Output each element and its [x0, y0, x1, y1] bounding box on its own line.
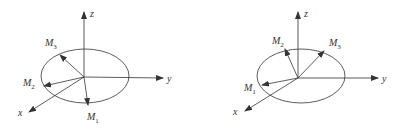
right-labels: z y x M1 M2 M3: [232, 8, 387, 117]
left-labels: z y x M1 M2 M3: [17, 8, 172, 125]
right-vector-m2: [285, 49, 298, 78]
left-m3-label: M3: [44, 37, 57, 51]
left-y-axis: [84, 77, 163, 78]
left-x-axis: [29, 77, 84, 112]
left-x-label: x: [17, 107, 23, 118]
left-m2-label: M2: [22, 77, 35, 91]
diagram-canvas: z y x M1 M2 M3 z y x M1 M2 M3: [0, 0, 400, 129]
left-diagram: [29, 12, 163, 112]
right-y-label: y: [381, 73, 387, 84]
left-y-label: y: [166, 73, 172, 84]
right-vector-m3: [298, 51, 324, 78]
left-ellipse: [41, 49, 129, 103]
right-m1-label: M1: [243, 82, 256, 96]
right-m3-label: M3: [328, 37, 341, 51]
right-z-label: z: [303, 8, 308, 19]
right-x-label: x: [232, 106, 238, 117]
left-z-label: z: [89, 8, 94, 19]
left-vector-m1: [84, 77, 88, 105]
left-vector-m3: [60, 55, 84, 77]
left-vector-m2: [44, 77, 84, 86]
right-diagram: [245, 12, 378, 111]
left-m1-label: M1: [86, 111, 99, 125]
right-m2-label: M2: [271, 35, 284, 49]
